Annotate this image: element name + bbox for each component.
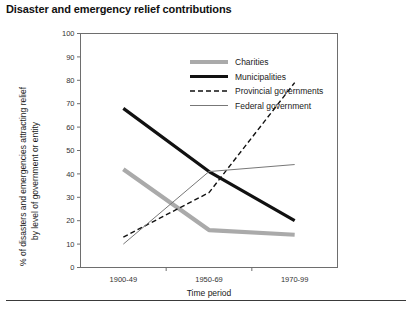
legend-label-federal-government: Federal government [235, 101, 312, 111]
legend-label-municipalities: Municipalities [235, 72, 286, 82]
y-tick-label: 60 [66, 123, 74, 132]
y-tick-label: 70 [66, 99, 74, 108]
chart-legend: CharitiesMunicipalitiesProvincial govern… [190, 57, 323, 111]
x-axis-title: Time period [187, 288, 232, 298]
line-chart-plot: 0102030405060708090100 1900-491950-69197… [0, 0, 412, 312]
y-tick-label: 80 [66, 76, 74, 85]
y-axis-title-line1: % of disasters and emergencies attractin… [18, 86, 28, 266]
y-tick-label: 20 [66, 216, 74, 225]
x-tick-label: 1950-69 [195, 275, 223, 284]
y-tick-label: 10 [66, 240, 74, 249]
legend-label-provincial-governments: Provincial governments [235, 86, 323, 96]
plot-frame [81, 34, 338, 268]
y-tick-label: 30 [66, 193, 74, 202]
y-tick-label: 0 [70, 263, 74, 272]
bottom-divider [6, 300, 406, 301]
series-line-charities [123, 169, 294, 235]
y-tick-label: 90 [66, 53, 74, 62]
y-axis-title-line2: by level of government or entity [30, 121, 40, 240]
x-tick-label: 1970-99 [281, 275, 309, 284]
series-line-municipalities [123, 108, 294, 220]
x-axis: 1900-491950-691970-99 [110, 268, 309, 284]
legend-label-charities: Charities [235, 57, 269, 67]
y-tick-label: 40 [66, 170, 74, 179]
y-tick-label: 50 [66, 146, 74, 155]
x-tick-label: 1900-49 [110, 275, 138, 284]
chart-figure: Disaster and emergency relief contributi… [0, 0, 412, 312]
y-axis: 0102030405060708090100 [62, 29, 81, 272]
y-tick-label: 100 [62, 29, 75, 38]
